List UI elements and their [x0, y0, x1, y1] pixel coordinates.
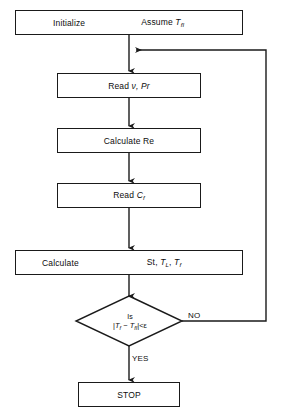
assume-subscript: fI	[181, 21, 185, 28]
node-calculate-re: Calculate Re	[57, 128, 201, 153]
node-stop: STOP	[78, 382, 180, 407]
assume-text: Assume	[141, 17, 175, 27]
read-cf-text: Read	[113, 190, 136, 200]
read-symbols: ν, Pr	[132, 81, 150, 91]
edge-label-no: NO	[188, 311, 200, 320]
node-calculate-st: Calculate St, TL, Tf	[15, 250, 243, 275]
node-initialize-label-right: Assume TfI	[141, 17, 184, 28]
node-calculate-st-label-right: St, TL, Tf	[147, 257, 182, 268]
flowchart-page: Initialize Assume TfI Read ν, Pr Calcula…	[0, 0, 282, 415]
node-initialize: Initialize Assume TfI	[15, 10, 243, 35]
edge-label-yes: YES	[132, 354, 149, 363]
node-read-nu-pr: Read ν, Pr	[57, 73, 201, 98]
node-calculate-st-label-left: Calculate	[42, 258, 79, 268]
node-initialize-label-left: Initialize	[53, 18, 85, 28]
read-text: Read	[108, 81, 131, 91]
node-stop-label: STOP	[117, 390, 141, 400]
node-calculate-re-label: Calculate Re	[104, 136, 154, 146]
decision-diamond-shape	[76, 296, 182, 346]
node-read-nu-pr-label: Read ν, Pr	[108, 81, 150, 91]
node-read-cf-label: Read Cf	[113, 190, 145, 201]
read-cf-subscript: f	[143, 194, 145, 201]
node-read-cf: Read Cf	[57, 183, 201, 208]
